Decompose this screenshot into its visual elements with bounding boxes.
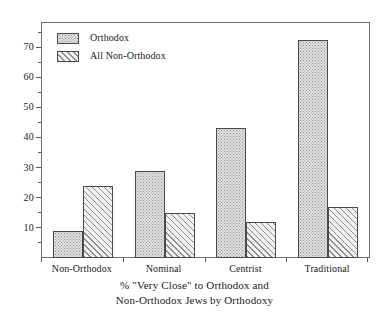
legend-label-all-non-orthodox: All Non-Orthodox: [90, 50, 166, 62]
bar-traditional-all-non-orthodox: [328, 207, 358, 258]
bar-centrist-orthodox: [216, 128, 246, 258]
legend-swatch-orthodox: [57, 33, 79, 44]
bar-non-orthodox-orthodox: [53, 231, 83, 258]
y-tick-mark: [36, 107, 41, 108]
y-tick-mark: [36, 227, 41, 228]
y-tick-label: 60: [24, 69, 34, 85]
legend-item-orthodox: Orthodox: [57, 29, 197, 47]
legend-swatch-all-non-orthodox: [57, 51, 79, 62]
chart-caption: % "Very Close" to Orthodox and Non-Ortho…: [0, 278, 389, 308]
x-axis-label-centrist: Centrist: [229, 262, 261, 276]
y-tick-mark: [36, 137, 41, 138]
chart-legend: Orthodox All Non-Orthodox: [57, 29, 197, 65]
caption-line-2: Non-Orthodox Jews by Orthodoxy: [0, 293, 389, 308]
y-tick-mark: [36, 167, 41, 168]
x-axis-label-traditional: Traditional: [305, 262, 350, 276]
y-tick-mark: [38, 62, 41, 63]
bar-centrist-all-non-orthodox: [246, 222, 276, 258]
x-axis-category-labels: Non-OrthodoxNominalCentristTraditional: [41, 262, 370, 278]
legend-label-orthodox: Orthodox: [90, 32, 129, 44]
y-axis: 10203040506070: [0, 22, 41, 258]
bar-nominal-all-non-orthodox: [165, 213, 195, 258]
y-tick-mark: [36, 47, 41, 48]
y-tick-mark: [38, 92, 41, 93]
y-tick-mark: [38, 212, 41, 213]
legend-item-all-non-orthodox: All Non-Orthodox: [57, 47, 197, 65]
bar-chart-figure: 10203040506070 Non-OrthodoxNominalCentri…: [0, 0, 389, 318]
y-tick-mark: [38, 32, 41, 33]
y-tick-label: 20: [24, 190, 34, 206]
y-tick-mark: [38, 182, 41, 183]
x-axis-label-non-orthodox: Non-Orthodox: [52, 262, 112, 276]
y-tick-label: 30: [24, 160, 34, 176]
y-tick-mark: [38, 152, 41, 153]
y-tick-mark: [38, 122, 41, 123]
y-tick-label: 50: [24, 99, 34, 115]
bar-non-orthodox-all-non-orthodox: [83, 186, 113, 258]
y-tick-label: 70: [24, 39, 34, 55]
y-tick-label: 10: [24, 220, 34, 236]
y-tick-mark: [36, 197, 41, 198]
bar-nominal-orthodox: [135, 171, 165, 258]
caption-line-1: % "Very Close" to Orthodox and: [0, 278, 389, 293]
y-tick-mark: [36, 77, 41, 78]
y-tick-label: 40: [24, 129, 34, 145]
x-axis-label-nominal: Nominal: [146, 262, 182, 276]
bar-traditional-orthodox: [298, 40, 328, 258]
y-tick-mark: [38, 242, 41, 243]
